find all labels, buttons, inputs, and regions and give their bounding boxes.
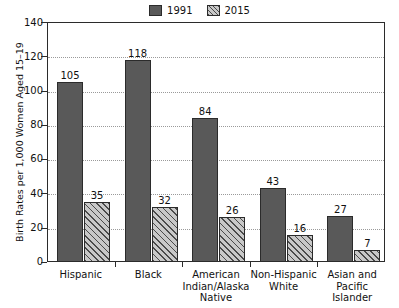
x-category-non-hispanic-white: Non-Hispanic White (247, 269, 321, 292)
x-tick-mark-3 (250, 262, 251, 267)
x-category-asian-and-pacific-islander-line-2: Pacific (318, 281, 386, 293)
y-tick-label-60: 60 (3, 154, 43, 164)
x-tick-mark-2 (182, 262, 183, 267)
x-tick-mark-4 (317, 262, 318, 267)
legend-swatch-2015 (207, 5, 220, 16)
x-category-asian-and-pacific-islander: Asian and Pacific Islander (318, 269, 386, 304)
bar-value-1991-asian-and-pacific-islander: 27 (334, 204, 347, 215)
x-category-american-indian-alaska-native-line-1: American (178, 269, 254, 281)
bar-1991-hispanic[interactable]: 105 (57, 82, 83, 262)
y-tick-label-0: 0 (3, 257, 43, 267)
bar-value-1991-hispanic: 105 (60, 70, 79, 81)
bar-2015-black[interactable]: 32 (152, 207, 178, 262)
legend-swatch-1991 (149, 5, 162, 16)
x-category-asian-and-pacific-islander-line-1: Asian and (318, 269, 386, 281)
x-category-non-hispanic-white-line-1: Non-Hispanic (247, 269, 321, 281)
x-category-black-line-1: Black (115, 269, 183, 281)
bar-group-black: 118 32 (115, 22, 183, 262)
legend-label-1991: 1991 (167, 5, 192, 16)
y-tick-label-40: 40 (3, 189, 43, 199)
bar-value-2015-asian-and-pacific-islander: 7 (364, 238, 370, 249)
bar-1991-asian-and-pacific-islander[interactable]: 27 (327, 216, 353, 262)
chart-legend: 1991 2015 (0, 2, 399, 18)
bar-group-asian-and-pacific-islander: 27 7 (317, 22, 385, 262)
legend-entry-2015: 2015 (207, 5, 250, 16)
x-category-american-indian-alaska-native-line-2: Indian/Alaska (178, 281, 254, 293)
bar-value-2015-hispanic: 35 (91, 190, 104, 201)
bar-2015-asian-and-pacific-islander[interactable]: 7 (354, 250, 380, 262)
x-category-american-indian-alaska-native: American Indian/Alaska Native (178, 269, 254, 304)
x-category-hispanic: Hispanic (47, 269, 115, 281)
bar-1991-black[interactable]: 118 (125, 60, 151, 262)
bar-1991-american-indian-alaska-native[interactable]: 84 (192, 118, 218, 262)
bar-chart: 1991 2015 Birth Rates per 1,000 Women Ag… (0, 0, 399, 308)
x-category-american-indian-alaska-native-line-3: Native (178, 292, 254, 304)
bar-value-2015-non-hispanic-white: 16 (293, 223, 306, 234)
bar-2015-american-indian-alaska-native[interactable]: 26 (219, 217, 245, 262)
y-tick-label-120: 120 (3, 52, 43, 62)
bar-group-american-indian-alaska-native: 84 26 (182, 22, 250, 262)
y-tick-label-100: 100 (3, 86, 43, 96)
bar-1991-non-hispanic-white[interactable]: 43 (260, 188, 286, 262)
bar-2015-non-hispanic-white[interactable]: 16 (287, 235, 313, 262)
x-category-hispanic-line-1: Hispanic (47, 269, 115, 281)
x-tick-mark-1 (115, 262, 116, 267)
bar-value-1991-non-hispanic-white: 43 (266, 176, 279, 187)
legend-entry-1991: 1991 (149, 5, 192, 16)
y-tick-label-20: 20 (3, 223, 43, 233)
bar-group-hispanic: 105 35 (47, 22, 115, 262)
bar-value-2015-american-indian-alaska-native: 26 (226, 205, 239, 216)
y-tick-mark-0 (41, 262, 47, 263)
bar-value-1991-black: 118 (128, 48, 147, 59)
x-category-non-hispanic-white-line-2: White (247, 281, 321, 293)
legend-label-2015: 2015 (225, 5, 250, 16)
x-category-asian-and-pacific-islander-line-3: Islander (318, 292, 386, 304)
bars-layer: 105 35 118 32 84 26 43 (47, 22, 385, 262)
y-tick-label-140: 140 (3, 18, 43, 28)
bar-2015-hispanic[interactable]: 35 (84, 202, 110, 262)
x-category-black: Black (115, 269, 183, 281)
y-tick-label-80: 80 (3, 120, 43, 130)
bar-group-non-hispanic-white: 43 16 (250, 22, 318, 262)
bar-value-1991-american-indian-alaska-native: 84 (199, 106, 212, 117)
bar-value-2015-black: 32 (158, 195, 171, 206)
